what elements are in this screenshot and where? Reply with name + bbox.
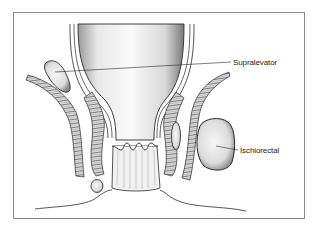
ischiorectal-label: Ischiorectal <box>240 146 279 155</box>
perineal-skin-left <box>35 190 112 209</box>
perineal-skin-right <box>160 190 246 211</box>
levator-ani-left <box>26 75 84 177</box>
perianal-abscess <box>91 180 103 193</box>
intersphincteric-abscess <box>172 122 181 150</box>
external-sphincter-left <box>84 92 104 176</box>
anorectal-diagram <box>0 0 317 235</box>
ischiorectal-abscess <box>197 119 235 171</box>
supralevator-label: Supralevator <box>233 58 277 67</box>
